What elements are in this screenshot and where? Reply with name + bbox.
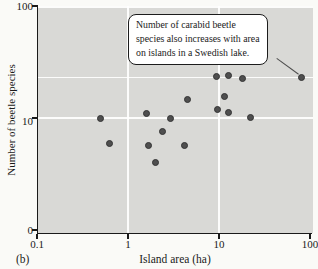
data-point bbox=[152, 159, 159, 166]
annotation-leader-line bbox=[276, 58, 298, 75]
x-axis-line bbox=[37, 233, 312, 234]
data-point bbox=[221, 93, 228, 100]
panel-label: (b) bbox=[16, 253, 29, 265]
data-point bbox=[106, 140, 113, 147]
data-point bbox=[298, 74, 305, 81]
gridline-y-100 bbox=[37, 6, 313, 7]
data-point bbox=[239, 75, 246, 82]
data-point bbox=[225, 109, 232, 116]
data-point bbox=[247, 114, 254, 121]
annotation-callout: Number of carabid beetle species also in… bbox=[128, 14, 268, 65]
data-point bbox=[143, 110, 150, 117]
data-point bbox=[181, 142, 188, 149]
data-point bbox=[159, 128, 166, 135]
gridline-y-23 bbox=[37, 77, 313, 78]
x-tick-label-1: 1 bbox=[110, 238, 146, 250]
data-point bbox=[145, 142, 152, 149]
figure-panel-b: Number of carabid beetle species also in… bbox=[0, 0, 318, 269]
x-tick-label-0.1: 0.1 bbox=[19, 238, 55, 250]
data-point bbox=[97, 115, 104, 122]
gridline-y-10 bbox=[37, 117, 313, 118]
y-tick-label-0: 0 bbox=[6, 224, 33, 236]
data-point bbox=[167, 115, 174, 122]
plot-area: Number of carabid beetle species also in… bbox=[37, 6, 313, 233]
data-point bbox=[184, 96, 191, 103]
y-axis-line bbox=[37, 5, 38, 233]
annotation-line-2: species also increases with area bbox=[136, 32, 260, 46]
y-axis-title: Number of beetle species bbox=[5, 64, 17, 175]
annotation-line-3: on islands in a Swedish lake. bbox=[136, 46, 260, 60]
x-tick-label-10: 10 bbox=[201, 238, 237, 250]
y-tick-label-100: 100 bbox=[6, 0, 33, 12]
x-tick-label-100: 100 bbox=[292, 238, 318, 250]
x-axis-title: Island area (ha) bbox=[139, 253, 211, 265]
annotation-line-1: Number of carabid beetle bbox=[136, 18, 260, 32]
data-point bbox=[225, 72, 232, 79]
data-point bbox=[214, 106, 221, 113]
